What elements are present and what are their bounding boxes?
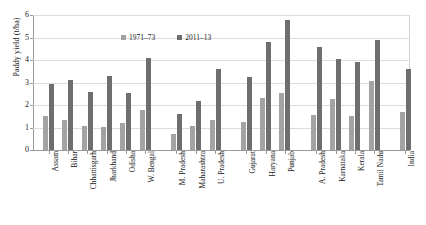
bar — [241, 122, 246, 150]
bar — [88, 92, 93, 150]
bar — [279, 93, 284, 150]
bar — [260, 98, 265, 150]
x-tick-mark — [336, 151, 337, 154]
x-axis-label: M. Pradesh — [179, 151, 187, 225]
bar — [285, 20, 290, 151]
bar-group — [97, 15, 116, 150]
bar — [120, 123, 125, 150]
x-tick-mark — [196, 151, 197, 154]
bar — [146, 58, 151, 150]
bar-group — [116, 15, 135, 150]
bar — [101, 127, 106, 150]
y-tick-label: 5 — [25, 34, 29, 42]
bar-group — [186, 15, 205, 150]
x-axis-label: Odisha — [129, 151, 137, 225]
bar — [190, 126, 195, 150]
bar-group — [326, 15, 345, 150]
x-axis-label: Punjab — [288, 151, 296, 225]
bar-group — [58, 15, 77, 150]
bar — [336, 59, 341, 150]
x-tick-mark — [145, 151, 146, 154]
bar — [107, 76, 112, 150]
bar-group — [345, 15, 364, 150]
bar — [43, 116, 48, 150]
x-axis-label: W. Bengal — [148, 151, 156, 225]
x-axis-label: Assam — [52, 151, 60, 225]
bar-group — [205, 15, 224, 150]
bar — [140, 110, 145, 151]
bar — [126, 93, 131, 150]
bar — [62, 120, 67, 150]
bar — [82, 126, 87, 150]
bar-group — [256, 15, 275, 150]
plot-area: 0123456 1971–73 2011–13 — [33, 15, 410, 150]
x-tick-mark — [68, 151, 69, 154]
y-tick-label: 2 — [25, 101, 29, 109]
bar — [355, 62, 360, 150]
y-tick-label: 0 — [25, 146, 29, 154]
bar — [330, 99, 335, 150]
x-axis-label: Gujarat — [249, 151, 257, 225]
x-axis-label: India — [408, 151, 416, 225]
bar — [311, 115, 316, 150]
bar-group — [136, 15, 155, 150]
x-tick-mark — [126, 151, 127, 154]
bar — [375, 40, 380, 150]
bar — [68, 80, 73, 150]
bar-group — [167, 15, 186, 150]
x-tick-mark — [355, 151, 356, 154]
bar-group — [396, 15, 415, 150]
y-tick-label: 1 — [25, 124, 29, 132]
bar — [266, 42, 271, 150]
bar — [216, 69, 221, 150]
bar — [400, 112, 405, 150]
x-axis-label: Bihar — [71, 151, 79, 225]
bar-group — [307, 15, 326, 150]
x-axis-label: Haryana — [269, 151, 277, 225]
bar-group — [78, 15, 97, 150]
x-axis-label: Chhattisgarh — [90, 151, 98, 225]
x-axis-label: Tamil Nadu — [377, 151, 385, 225]
bar — [406, 69, 411, 150]
x-tick-mark — [285, 151, 286, 154]
x-tick-mark — [215, 151, 216, 154]
y-axis-title: Paddy yield (t/ha) — [12, 0, 26, 97]
bar — [349, 116, 354, 150]
x-tick-mark — [374, 151, 375, 154]
x-tick-mark — [266, 151, 267, 154]
x-axis-label: Kerala — [358, 151, 366, 225]
bar-group — [275, 15, 294, 150]
y-tick-label: 6 — [25, 11, 29, 19]
x-tick-mark — [49, 151, 50, 154]
bar — [317, 47, 322, 150]
x-axis-label: U. Pradesh — [218, 151, 226, 225]
x-tick-mark — [107, 151, 108, 154]
bar — [210, 120, 215, 150]
paddy-yield-bar-chart: Paddy yield (t/ha) 0123456 1971–73 2011–… — [0, 0, 426, 225]
x-axis-label: Maharashtra — [199, 151, 207, 225]
bar — [177, 114, 182, 150]
bar — [369, 81, 374, 150]
bar-groups — [33, 15, 410, 150]
x-axis-label: Jharkhand — [110, 151, 118, 225]
x-axis-labels: AssamBiharChhattisgarhJharkhandOdishaW. … — [33, 151, 410, 225]
bar-group — [237, 15, 256, 150]
bar — [196, 101, 201, 150]
x-axis-label: Karnataka — [339, 151, 347, 225]
x-axis-label: A. Pradesh — [319, 151, 327, 225]
bar — [49, 84, 54, 150]
bar — [171, 134, 176, 150]
bar-group — [39, 15, 58, 150]
y-tick-label: 3 — [25, 79, 29, 87]
bar-group — [365, 15, 384, 150]
bar — [247, 77, 252, 150]
y-tick-label: 4 — [25, 56, 29, 64]
